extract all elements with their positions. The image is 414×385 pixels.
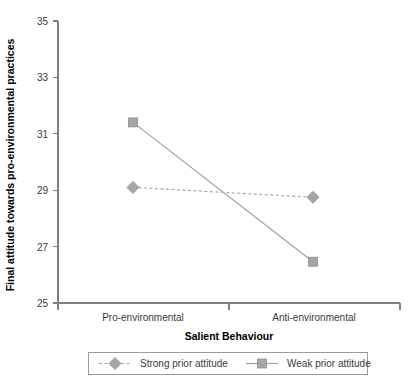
data-point-weak-pro-environmental xyxy=(129,118,138,127)
line-chart: Final attitude towards pro-environmental… xyxy=(0,0,414,385)
y-axis-title: Final attitude towards pro-environmental… xyxy=(4,39,16,292)
y-tick-label-27: 27 xyxy=(37,242,49,253)
x-category-label-anti-environmental: Anti-environmental xyxy=(272,312,355,323)
y-tick-label-33: 33 xyxy=(37,72,49,83)
y-tick-label-35: 35 xyxy=(37,16,49,27)
legend-label-strong-prior-attitude: Strong prior attitude xyxy=(140,358,228,369)
y-tick-label-29: 29 xyxy=(37,185,49,196)
y-tick-label-25: 25 xyxy=(37,298,49,309)
data-point-weak-anti-environmental xyxy=(309,257,318,266)
legend-marker-diamond-icon xyxy=(109,358,121,370)
legend-marker-square-icon xyxy=(258,359,267,368)
series-line-strong-prior-attitude xyxy=(133,187,313,197)
data-point-strong-pro-environmental xyxy=(127,181,139,193)
y-tick-label-31: 31 xyxy=(37,129,49,140)
x-axis-title: Salient Behaviour xyxy=(185,330,274,342)
chart-figure: Final attitude towards pro-environmental… xyxy=(0,0,414,385)
x-category-label-pro-environmental: Pro-environmental xyxy=(102,312,184,323)
data-point-strong-anti-environmental xyxy=(307,191,319,203)
legend-label-weak-prior-attitude: Weak prior attitude xyxy=(287,358,371,369)
